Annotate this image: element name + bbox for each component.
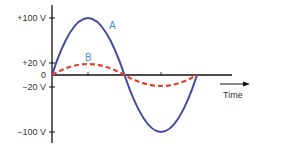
y-tick-label-0: 0 (41, 70, 46, 80)
y-tick-label-100: +100 V (17, 13, 46, 23)
y-tick-label-neg20: −20 V (22, 82, 46, 92)
time-axis-label: Time (223, 90, 243, 100)
voltage-sine-chart: +100 V +20 V 0 −20 V −100 V A B Time (0, 0, 284, 153)
series-b-label: B (85, 52, 92, 63)
time-arrow-head-icon (243, 82, 250, 87)
series-a-label: A (109, 20, 116, 31)
y-tick-label-20: +20 V (22, 58, 46, 68)
y-tick-label-neg100: −100 V (17, 127, 46, 137)
